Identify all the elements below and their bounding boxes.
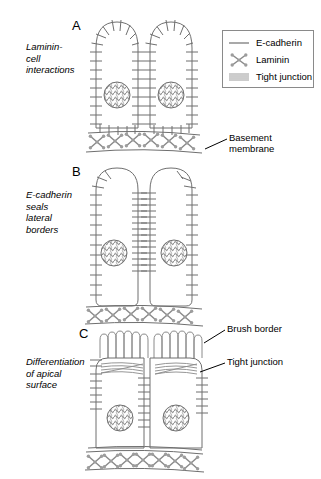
panel-letter-b: B — [72, 165, 81, 178]
line-swatch-icon — [228, 36, 250, 50]
figure-container: A B C Laminin- cell interactions E-cadhe… — [0, 0, 321, 479]
legend-item-tight-junction: Tight junction — [228, 68, 309, 85]
panel-letter-c: C — [79, 327, 88, 340]
nucleus-c-right — [163, 405, 189, 431]
nucleus-b-left — [101, 240, 127, 266]
callout-tight-junction: Tight junction — [227, 356, 283, 367]
cell-c-right — [150, 358, 208, 448]
cell-a-right — [144, 20, 198, 135]
panel-c-graphics — [85, 330, 225, 472]
nucleus-b-right — [161, 240, 187, 266]
cell-c-left — [90, 358, 152, 448]
callout-basement-membrane: Basement membrane — [229, 132, 274, 154]
legend-box: E-cadherin Laminin — [222, 30, 314, 88]
tight-junction-leader-line — [200, 363, 225, 372]
nucleus-a-right — [158, 82, 184, 108]
stacked-lines-icon — [228, 70, 250, 84]
legend-item-e-cadherin: E-cadherin — [228, 34, 309, 51]
cell-b-right — [141, 168, 198, 306]
panel-a-side-label: Laminin- cell interactions — [26, 41, 75, 76]
legend-item-laminin: Laminin — [228, 51, 309, 68]
brush-border-leader-line — [204, 330, 225, 343]
laminin-cross-icon — [228, 53, 250, 67]
panel-b-graphics — [85, 168, 203, 326]
basement-membrane-leader-line — [205, 139, 227, 149]
legend-label-laminin: Laminin — [256, 54, 289, 65]
legend-label-e-cadherin: E-cadherin — [256, 37, 302, 48]
basement-membrane-panel-b — [85, 305, 203, 326]
basement-membrane-panel-a — [86, 131, 202, 153]
cell-a-left — [90, 20, 144, 135]
panel-a-graphics — [86, 20, 227, 153]
panel-c-side-label: Differentiation of apical surface — [26, 356, 85, 391]
panel-letter-a: A — [72, 19, 81, 32]
callout-brush-border: Brush border — [227, 323, 282, 334]
legend-label-tight-junction: Tight junction — [256, 71, 312, 82]
panel-b-side-label: E-cadherin seals lateral borders — [26, 189, 72, 235]
cell-b-left — [90, 168, 147, 306]
basement-membrane-panel-c — [85, 450, 204, 472]
brush-border-panel-c — [100, 331, 202, 358]
nucleus-a-left — [104, 82, 130, 108]
nucleus-c-left — [107, 405, 133, 431]
